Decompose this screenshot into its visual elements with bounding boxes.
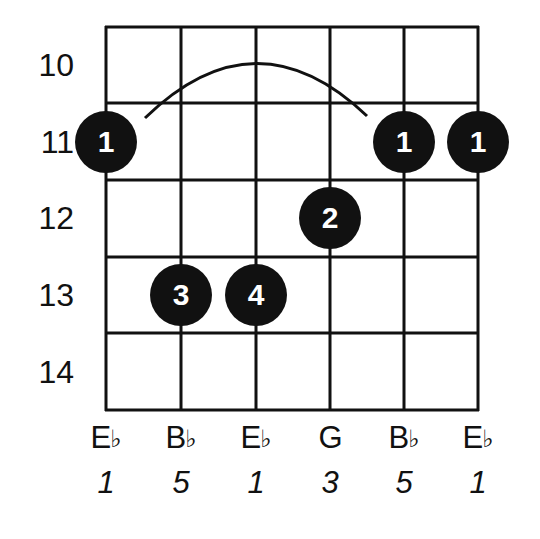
string-note-label: E♭ [226, 422, 286, 456]
interval-label: 1 [448, 467, 508, 499]
finger-dot: 1 [447, 111, 509, 173]
finger-dot: 4 [225, 264, 287, 326]
string-note-label: E♭ [448, 422, 508, 456]
string-note-label: B♭ [151, 422, 211, 456]
string-note-label: G [300, 422, 360, 456]
fret-number-label: 14 [14, 356, 74, 388]
interval-label: 1 [226, 467, 286, 499]
chord-diagram: 10 11 12 13 14 1 1 1 2 3 4 E♭ B♭ E♭ G B♭… [0, 0, 540, 539]
fret-number-label: 12 [14, 202, 74, 234]
finger-dot: 2 [299, 187, 361, 249]
finger-dot: 3 [150, 264, 212, 326]
finger-dot: 1 [373, 111, 435, 173]
finger-dot: 1 [75, 111, 137, 173]
fret-number-label: 11 [14, 126, 74, 158]
fret-lines [105, 27, 479, 410]
interval-label: 3 [300, 467, 360, 499]
interval-label: 5 [374, 467, 434, 499]
interval-label: 1 [76, 467, 136, 499]
interval-label: 5 [151, 467, 211, 499]
string-note-label: E♭ [76, 422, 136, 456]
fret-number-label: 10 [14, 49, 74, 81]
string-lines [106, 26, 478, 411]
string-note-label: B♭ [374, 422, 434, 456]
fret-number-label: 13 [14, 279, 74, 311]
